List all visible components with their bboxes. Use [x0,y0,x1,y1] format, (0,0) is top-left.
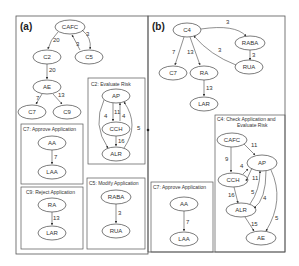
svg-text:CCH: CCH [110,126,123,132]
node-ra: RA [38,198,66,212]
node-laa-b: LAA [170,232,198,246]
node-cafc-b: CAFC [217,133,247,147]
svg-text:AP: AP [258,160,266,166]
svg-text:RABA: RABA [108,194,124,200]
edge-c4-c7 [175,37,184,65]
node-lar-b: LAR [190,97,218,111]
svg-text:9: 9 [225,156,229,162]
svg-text:C7: C7 [169,70,177,76]
svg-text:7: 7 [54,154,58,160]
svg-text:3: 3 [86,31,90,37]
svg-text:3: 3 [118,210,122,216]
svg-text:RA: RA [48,202,56,208]
svg-text:CAFC: CAFC [62,24,79,30]
edge-ap-ae [266,170,277,231]
box-c4-check-application-evaluate-risk: C4: Check Application and Evaluate Risk … [215,115,285,252]
svg-text:Evaluate Risk: Evaluate Risk [237,122,268,128]
node-rua: RUA [102,224,130,238]
svg-text:15: 15 [251,221,258,227]
node-c9: C9 [53,105,81,119]
node-cch: CCH [102,122,130,136]
svg-text:3: 3 [252,52,256,58]
svg-text:LAR: LAR [198,101,210,107]
node-ap: AP [102,89,130,103]
edge-c4-raba [201,28,246,36]
node-c5: C5 [75,50,103,64]
svg-text:AA: AA [180,201,188,207]
node-c2: C2 [33,50,61,64]
svg-text:LAA: LAA [178,236,189,242]
node-raba-b: RABA [235,36,265,50]
svg-text:C4: C4 [183,27,191,33]
svg-text:ALR: ALR [235,207,247,213]
svg-text:ALR: ALR [110,151,122,157]
node-aa: AA [38,136,66,150]
svg-text:C2: Evaluate Risk: C2: Evaluate Risk [91,81,131,87]
node-cch-b: CCH [218,173,248,187]
svg-text:4: 4 [263,195,267,201]
node-c7-b: C7 [159,66,187,80]
box-c5-modify-application: C5: Modify Application RABA RUA 3 [87,178,145,249]
svg-text:4: 4 [104,113,108,119]
svg-text:13: 13 [206,85,213,91]
svg-text:20: 20 [53,37,60,43]
svg-text:3: 3 [218,47,222,53]
panel-a-label: (a) [20,21,32,32]
node-ae: AE [33,80,61,94]
svg-text:3: 3 [226,19,230,25]
node-lar: LAR [38,226,66,240]
svg-text:C5: C5 [85,54,93,60]
svg-text:13: 13 [58,92,65,98]
svg-text:C9: Reject Application: C9: Reject Application [26,189,75,195]
svg-text:C7: Approve Application: C7: Approve Application [23,126,76,132]
node-ae-b: AE [246,231,276,245]
node-c7: C7 [18,105,46,119]
panel-b: (b) C4 RABA RUA C7 RA LAR 3 3 3 7 13 13 … [147,16,285,252]
node-cafc: CAFC [55,20,85,34]
svg-text:CAFC: CAFC [224,137,241,143]
svg-text:AE: AE [43,84,51,90]
svg-text:C2: C2 [43,54,51,60]
svg-text:11: 11 [252,175,259,181]
svg-text:13: 13 [187,49,194,55]
box-c9-reject-application: C9: Reject Application RA LAR 13 [21,187,83,249]
svg-text:LAA: LAA [46,169,57,175]
svg-text:RABA: RABA [242,40,258,46]
svg-text:11: 11 [251,142,258,148]
svg-text:20: 20 [49,67,56,73]
svg-text:RUA: RUA [110,228,123,234]
process-diagram: (a) CAFC C2 C5 AE C7 C9 20 3 3 20 7 13 C… [0,0,299,266]
svg-text:13: 13 [53,215,60,221]
node-aa-b: AA [170,197,198,211]
svg-text:4: 4 [240,163,244,169]
svg-text:7: 7 [186,219,190,225]
svg-text:16: 16 [228,192,235,198]
svg-text:5: 5 [137,125,141,131]
edge-cch-ap [243,169,248,174]
box-c7-approve-application-b: C7: Approve Application AA LAA 7 [151,182,213,252]
box-c2-evaluate-risk: C2: Evaluate Risk AP CCH ALR 4 11 4 5 16 [88,78,145,164]
node-c4: C4 [173,23,201,37]
box-c7-approve-application: C7: Approve Application AA LAA 7 [21,124,83,184]
svg-text:AA: AA [48,140,56,146]
svg-text:CCH: CCH [227,177,240,183]
svg-text:4: 4 [122,113,126,119]
svg-text:C7: C7 [28,109,36,115]
node-alr: ALR [102,147,130,161]
node-laa: LAA [38,165,66,179]
svg-text:5: 5 [275,215,279,221]
svg-text:5: 5 [251,189,255,195]
svg-text:LAR: LAR [46,230,58,236]
node-alr-b: ALR [226,203,256,217]
node-raba: RABA [101,190,131,204]
svg-text:7: 7 [172,49,176,55]
panel-connector-dot [147,129,150,132]
svg-text:C9: C9 [63,109,71,115]
svg-text:AP: AP [112,93,120,99]
panel-a: (a) CAFC C2 C5 AE C7 C9 20 3 3 20 7 13 C… [16,16,148,254]
edge-rua-c4 [194,36,236,65]
svg-text:3: 3 [76,41,80,47]
svg-text:RUA: RUA [243,64,256,70]
svg-text:16: 16 [118,138,125,144]
svg-text:C7: Approve Application: C7: Approve Application [153,184,206,190]
